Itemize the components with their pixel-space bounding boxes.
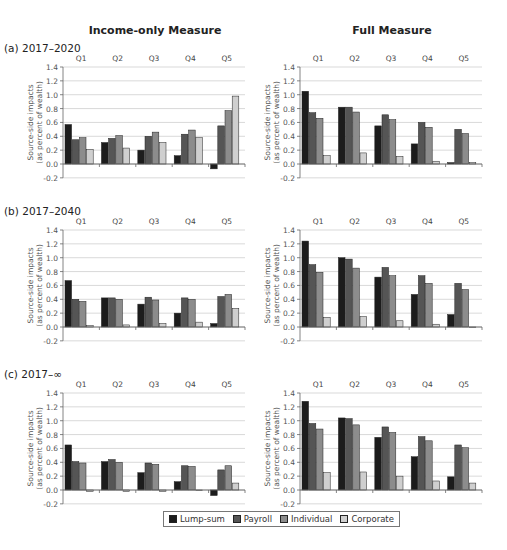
svg-text:0.2: 0.2 <box>46 146 58 155</box>
svg-text:1.0: 1.0 <box>46 417 58 426</box>
svg-text:-0.2: -0.2 <box>43 337 58 346</box>
svg-text:Q5: Q5 <box>458 54 469 63</box>
svg-text:0.6: 0.6 <box>46 444 58 453</box>
svg-text:1.4: 1.4 <box>46 63 58 72</box>
svg-text:1.4: 1.4 <box>283 226 295 235</box>
svg-text:Q2: Q2 <box>112 217 123 226</box>
svg-text:0.2: 0.2 <box>46 309 58 318</box>
svg-text:Q3: Q3 <box>386 217 397 226</box>
svg-text:Q4: Q4 <box>422 217 433 226</box>
legend-label: Individual <box>291 514 332 524</box>
svg-text:Source-side impacts: Source-side impacts <box>26 410 35 486</box>
svg-text:0.4: 0.4 <box>46 458 58 467</box>
svg-text:Source-side impacts: Source-side impacts <box>263 410 272 486</box>
svg-text:-0.2: -0.2 <box>280 337 295 346</box>
svg-text:0.8: 0.8 <box>46 105 58 114</box>
svg-text:1.2: 1.2 <box>283 240 295 249</box>
svg-text:Q1: Q1 <box>313 54 324 63</box>
svg-text:Q2: Q2 <box>112 380 123 389</box>
svg-text:0.0: 0.0 <box>46 160 58 169</box>
svg-text:Q1: Q1 <box>76 54 87 63</box>
svg-text:Q5: Q5 <box>221 380 232 389</box>
svg-text:Q2: Q2 <box>112 54 123 63</box>
svg-text:(as percent of wealth): (as percent of wealth) <box>35 407 44 490</box>
svg-text:0.0: 0.0 <box>46 486 58 495</box>
column-title-full: Full Measure <box>292 24 492 37</box>
svg-text:Q4: Q4 <box>422 380 433 389</box>
chart-legend: Lump-sum Payroll Individual Corporate <box>163 511 400 527</box>
svg-text:0.8: 0.8 <box>283 105 295 114</box>
legend-label: Corporate <box>351 514 394 524</box>
svg-text:Source-side impacts: Source-side impacts <box>263 247 272 323</box>
chart-a-income-only: 1.41.21.00.80.60.40.20.0-0.2Source-side … <box>0 50 250 190</box>
svg-text:Q4: Q4 <box>185 217 196 226</box>
svg-text:0.2: 0.2 <box>283 309 295 318</box>
svg-text:1.0: 1.0 <box>283 254 295 263</box>
legend-item-lump-sum: Lump-sum <box>169 514 225 524</box>
legend-label: Payroll <box>244 514 272 524</box>
svg-text:(as percent of wealth): (as percent of wealth) <box>272 81 281 164</box>
chart-c-income-only: 1.41.21.00.80.60.40.20.0-0.2Source-side … <box>0 376 250 516</box>
svg-text:Q5: Q5 <box>221 217 232 226</box>
svg-text:1.0: 1.0 <box>283 91 295 100</box>
svg-text:Q3: Q3 <box>386 380 397 389</box>
legend-label: Lump-sum <box>180 514 225 524</box>
svg-text:Q4: Q4 <box>185 54 196 63</box>
chart-a-full: 1.41.21.00.80.60.40.20.0-0.2Source-side … <box>237 50 497 190</box>
svg-text:0.6: 0.6 <box>46 281 58 290</box>
svg-text:1.2: 1.2 <box>46 403 58 412</box>
svg-text:1.4: 1.4 <box>283 389 295 398</box>
svg-text:0.4: 0.4 <box>283 295 295 304</box>
svg-text:1.2: 1.2 <box>46 240 58 249</box>
svg-text:(as percent of wealth): (as percent of wealth) <box>35 81 44 164</box>
svg-text:0.8: 0.8 <box>283 431 295 440</box>
svg-text:0.0: 0.0 <box>46 323 58 332</box>
legend-swatch-corporate <box>340 515 348 523</box>
svg-text:Q3: Q3 <box>386 54 397 63</box>
legend-swatch-payroll <box>233 515 241 523</box>
svg-text:Source-side impacts: Source-side impacts <box>26 84 35 160</box>
svg-text:0.0: 0.0 <box>283 160 295 169</box>
svg-text:0.6: 0.6 <box>283 444 295 453</box>
svg-text:0.4: 0.4 <box>283 458 295 467</box>
svg-text:Q3: Q3 <box>149 217 160 226</box>
svg-text:Q1: Q1 <box>313 380 324 389</box>
svg-text:0.2: 0.2 <box>283 472 295 481</box>
svg-text:0.6: 0.6 <box>283 118 295 127</box>
svg-text:1.2: 1.2 <box>46 77 58 86</box>
svg-text:1.0: 1.0 <box>46 254 58 263</box>
svg-text:0.4: 0.4 <box>283 132 295 141</box>
svg-text:0.4: 0.4 <box>46 295 58 304</box>
chart-c-full: 1.41.21.00.80.60.40.20.0-0.2Source-side … <box>237 376 497 516</box>
svg-text:(as percent of wealth): (as percent of wealth) <box>35 244 44 327</box>
svg-text:1.0: 1.0 <box>46 91 58 100</box>
svg-text:0.0: 0.0 <box>283 486 295 495</box>
svg-text:1.2: 1.2 <box>283 77 295 86</box>
legend-swatch-lump-sum <box>169 515 177 523</box>
legend-item-individual: Individual <box>280 514 332 524</box>
svg-text:0.8: 0.8 <box>46 431 58 440</box>
svg-text:Q1: Q1 <box>76 380 87 389</box>
svg-text:1.0: 1.0 <box>283 417 295 426</box>
svg-text:Q2: Q2 <box>349 54 360 63</box>
svg-text:Q5: Q5 <box>221 54 232 63</box>
svg-text:1.4: 1.4 <box>46 226 58 235</box>
svg-text:1.4: 1.4 <box>46 389 58 398</box>
svg-text:Q1: Q1 <box>313 217 324 226</box>
svg-text:0.4: 0.4 <box>46 132 58 141</box>
svg-text:0.8: 0.8 <box>283 268 295 277</box>
svg-text:0.6: 0.6 <box>46 118 58 127</box>
svg-text:(as percent of wealth): (as percent of wealth) <box>272 407 281 490</box>
svg-text:-0.2: -0.2 <box>280 174 295 183</box>
svg-text:-0.2: -0.2 <box>43 500 58 509</box>
svg-text:Q4: Q4 <box>185 380 196 389</box>
svg-text:1.4: 1.4 <box>283 63 295 72</box>
svg-text:Q5: Q5 <box>458 380 469 389</box>
svg-text:-0.2: -0.2 <box>43 174 58 183</box>
svg-text:0.2: 0.2 <box>46 472 58 481</box>
svg-text:Q2: Q2 <box>349 217 360 226</box>
column-title-income-only: Income-only Measure <box>55 24 255 37</box>
svg-text:Q3: Q3 <box>149 54 160 63</box>
svg-text:Source-side impacts: Source-side impacts <box>263 84 272 160</box>
chart-b-full: 1.41.21.00.80.60.40.20.0-0.2Source-side … <box>237 213 497 353</box>
